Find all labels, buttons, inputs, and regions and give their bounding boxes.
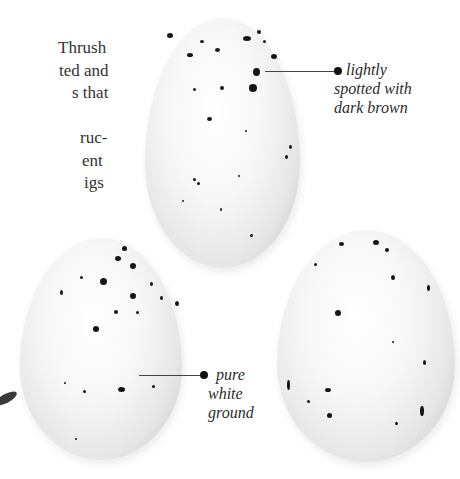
leader-line-top [265,71,337,72]
text-line: igs [0,172,110,195]
caption-line: pure [216,365,254,384]
feather-fragment [0,389,19,408]
leader-line-left [139,375,204,376]
caption-line: lightly [346,60,412,79]
text-line: ted and [0,60,110,83]
caption-line: dark brown [334,98,412,117]
caption-left-egg: pure white ground [216,365,254,422]
text-line: ruc- [0,127,110,150]
caption-line: ground [208,403,254,422]
body-text-fragment: Thrush ted and s that ruc- ent igs [0,37,110,195]
text-line: ent [0,150,110,173]
egg-right-image [277,230,455,462]
pointer-dot-top [334,67,342,75]
egg-left-image [20,238,182,460]
text-line: s that [0,82,110,105]
caption-top-egg: lightly spotted with dark brown [346,60,412,117]
egg-top-image [145,18,300,268]
text-line: Thrush [0,37,110,60]
caption-line: white [208,384,254,403]
pointer-dot-left [200,371,208,379]
caption-line: spotted with [334,79,412,98]
text-line [0,105,110,128]
